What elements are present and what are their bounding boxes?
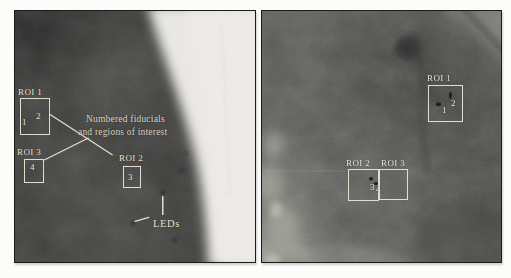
fiducials-note-line1: Numbered fiducials <box>86 113 167 126</box>
figure-canvas: ROI 1 1 2 ROI 3 4 ROI 2 3 Numbered fiduc… <box>0 0 511 278</box>
xray-panel-right: ROI 1 1 2 ROI 2 ROI 3 3 4 <box>261 10 502 263</box>
left-fiducial-3-label: 3 <box>128 172 133 182</box>
xray-grain-texture <box>262 11 501 262</box>
right-roi2-label: ROI 2 <box>346 158 370 168</box>
left-fiducial-4-label: 4 <box>30 162 35 172</box>
left-fiducial-1-label: 1 <box>22 117 27 127</box>
right-roi1-box <box>428 85 463 122</box>
left-fiducial-2-label: 2 <box>36 111 41 121</box>
left-roi2-label: ROI 2 <box>119 153 143 163</box>
fiducials-note: Numbered fiducials and regions of intere… <box>78 113 167 139</box>
right-fiducial-1-label: 1 <box>442 105 447 115</box>
xray-image-right <box>262 11 501 262</box>
right-roi3-label: ROI 3 <box>381 158 405 168</box>
leds-label: LEDs <box>153 218 180 229</box>
left-roi1-label: ROI 1 <box>18 87 42 97</box>
right-fiducial-3-label: 3 <box>370 182 375 192</box>
xray-panel-left: ROI 1 1 2 ROI 3 4 ROI 2 3 Numbered fiduc… <box>14 10 256 263</box>
left-roi3-label: ROI 3 <box>17 147 41 157</box>
right-roi1-label: ROI 1 <box>427 73 451 83</box>
right-fiducial-4-label: 4 <box>376 184 381 194</box>
right-fiducial-2-label: 2 <box>451 98 456 108</box>
fiducials-note-line2: and regions of interest <box>78 126 167 139</box>
right-roi3-box <box>379 169 408 200</box>
